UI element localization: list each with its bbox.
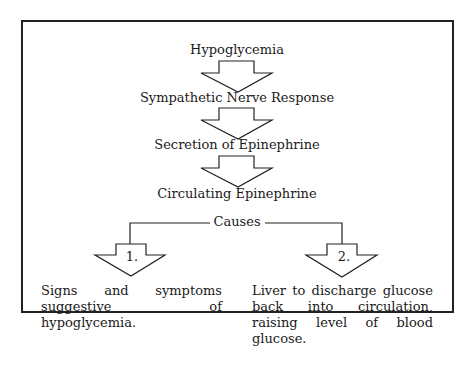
branch-connector-left [130, 223, 210, 244]
step-circulating-epinephrine: Circulating Epinephrine [157, 186, 316, 201]
down-arrow-2 [201, 108, 272, 139]
outcome-text-2: Liver to discharge glucose back into cir… [252, 283, 433, 347]
step-hypoglycemia: Hypoglycemia [190, 42, 284, 57]
outcome-number-1: 1. [126, 249, 138, 264]
step-secretion-of-epinephrine: Secretion of Epinephrine [154, 137, 319, 152]
branch-label-causes: Causes [213, 214, 260, 229]
step-sympathetic-nerve-response: Sympathetic Nerve Response [140, 90, 334, 105]
branch-connector-right [265, 223, 342, 244]
outcome-number-2: 2. [338, 249, 350, 264]
down-arrow-3 [201, 156, 272, 187]
outcome-text-1: Signs and symptoms suggestive of hypogly… [41, 283, 222, 331]
down-arrow-1 [201, 61, 272, 92]
